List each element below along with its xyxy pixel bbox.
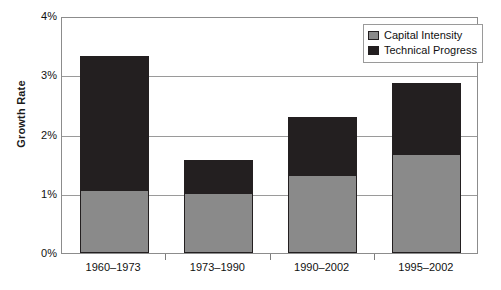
y-tick-label: 3%: [31, 70, 57, 81]
bar-segment: [288, 175, 357, 253]
y-tick-label: 4%: [31, 11, 57, 22]
x-axis-tick: [374, 254, 375, 260]
bar-group: [288, 16, 357, 253]
x-axis-tick: [165, 254, 166, 260]
y-axis-title: Growth Rate: [15, 69, 27, 159]
y-tick-label: 1%: [31, 189, 57, 200]
legend-swatch-icon: [368, 31, 379, 40]
bar-segment: [184, 160, 253, 194]
chart-legend: Capital IntensityTechnical Progress: [363, 24, 483, 63]
y-tick-label: 0%: [31, 248, 57, 259]
bar-segment: [80, 190, 149, 253]
bar-group: [80, 16, 149, 253]
bar-group: [184, 16, 253, 253]
legend-item-label: Capital Intensity: [384, 30, 462, 41]
y-axis-tick-labels: 0%1%2%3%4%: [27, 0, 57, 290]
x-axis-category-label: 1960–1973: [61, 261, 165, 273]
x-axis-tick: [270, 254, 271, 260]
x-axis-category-label: 1973–1990: [165, 261, 269, 273]
x-axis-category-label: 1995–2002: [374, 261, 478, 273]
legend-swatch-icon: [368, 46, 379, 55]
bar-segment: [184, 193, 253, 253]
stacked-bar-chart: Growth Rate 0%1%2%3%4% 1960–19731973–199…: [0, 0, 501, 290]
legend-item: Capital Intensity: [368, 28, 477, 43]
y-tick-label: 2%: [31, 130, 57, 141]
bar-segment: [392, 154, 461, 253]
legend-item-label: Technical Progress: [384, 45, 477, 56]
x-axis-category-label: 1990–2002: [270, 261, 374, 273]
bar-segment: [80, 56, 149, 190]
bar-segment: [392, 83, 461, 155]
legend-item: Technical Progress: [368, 43, 477, 58]
bar-segment: [288, 117, 357, 176]
